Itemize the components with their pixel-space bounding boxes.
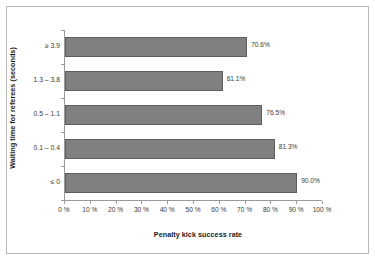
bar-value-label: 70.6% (251, 41, 270, 48)
bar-value-label: 90.0% (301, 177, 320, 184)
x-axis-tick-label: 100 % (307, 206, 337, 213)
plot-area: ≥ 3.970.6%1.3 – 3.861.1%0.5 – 1.176.5%0.… (64, 30, 322, 200)
x-axis-tick (167, 201, 168, 204)
x-axis-tick (270, 201, 271, 204)
y-axis-tick (61, 98, 64, 99)
y-axis-tick (61, 30, 64, 31)
category-label: ≤ 0 (0, 178, 60, 185)
y-axis-tick (61, 64, 64, 65)
x-axis-tick (90, 201, 91, 204)
bar-row: 0.1 – 0.481.3% (64, 132, 322, 166)
x-axis-tick (245, 201, 246, 204)
bar-value-label: 81.3% (279, 143, 298, 150)
bar-value-label: 61.1% (227, 75, 246, 82)
x-axis-tick (296, 201, 297, 204)
bar (65, 173, 297, 193)
bar (65, 139, 275, 159)
y-axis-tick (61, 166, 64, 167)
bar-value-label: 76.5% (266, 109, 285, 116)
bar-row: 1.3 – 3.861.1% (64, 64, 322, 98)
bar (65, 105, 262, 125)
bar-row: ≥ 3.970.6% (64, 30, 322, 64)
category-label: 0.1 – 0.4 (0, 144, 60, 151)
bar-row: ≤ 090.0% (64, 166, 322, 200)
x-axis-tick (64, 201, 65, 204)
category-label: 1.3 – 3.8 (0, 76, 60, 83)
y-axis-tick (61, 132, 64, 133)
x-axis-title: Penalty kick success rate (78, 230, 318, 239)
x-axis-tick (116, 201, 117, 204)
category-label: 0.5 – 1.1 (0, 110, 60, 117)
bar (65, 71, 223, 91)
category-label: ≥ 3.9 (0, 42, 60, 49)
chart-figure: Waiting time for referees (seconds) ≥ 3.… (0, 0, 375, 260)
bar-row: 0.5 – 1.176.5% (64, 98, 322, 132)
bar (65, 37, 247, 57)
x-axis-tick (219, 201, 220, 204)
x-axis-tick (322, 201, 323, 204)
x-axis-tick (141, 201, 142, 204)
x-axis-tick (193, 201, 194, 204)
